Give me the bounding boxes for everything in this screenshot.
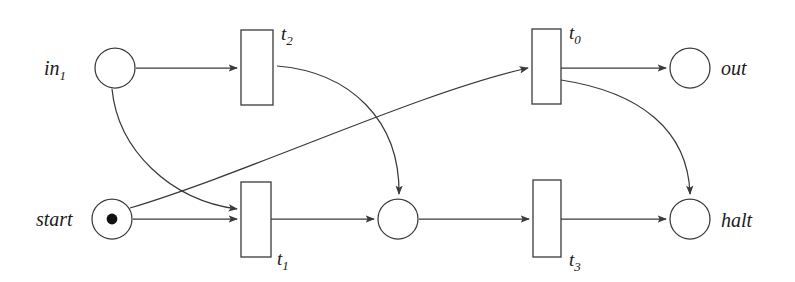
- arc-t2-to-mid: [277, 66, 399, 194]
- place-label-out: out: [721, 57, 747, 79]
- transition-label-t2: t2: [281, 23, 293, 48]
- transition-label-t3: t3: [569, 249, 581, 274]
- transition-t0[interactable]: [532, 29, 561, 104]
- petri-net-canvas: in1 out start halt t2 t0 t1 t3: [0, 0, 795, 282]
- arc-in1-to-t1: [112, 89, 237, 209]
- arc-start-to-t0: [130, 68, 528, 208]
- transition-t1[interactable]: [241, 182, 271, 257]
- transition-label-t1: t1: [277, 248, 289, 273]
- token-start: [107, 214, 118, 225]
- place-out[interactable]: [670, 48, 710, 88]
- place-mid[interactable]: [378, 199, 418, 239]
- transition-label-t0: t0: [569, 22, 581, 47]
- place-halt[interactable]: [670, 199, 710, 239]
- place-layer: [92, 48, 710, 239]
- petri-net-diagram: in1 out start halt t2 t0 t1 t3: [0, 0, 795, 282]
- place-label-in1: in1: [44, 57, 66, 83]
- place-label-start: start: [36, 208, 73, 230]
- place-label-halt: halt: [721, 209, 753, 231]
- transition-t3[interactable]: [533, 180, 561, 257]
- arc-t0-to-halt: [561, 80, 690, 194]
- place-in1[interactable]: [95, 48, 135, 88]
- arc-layer: [112, 66, 690, 219]
- transition-t2[interactable]: [241, 30, 273, 105]
